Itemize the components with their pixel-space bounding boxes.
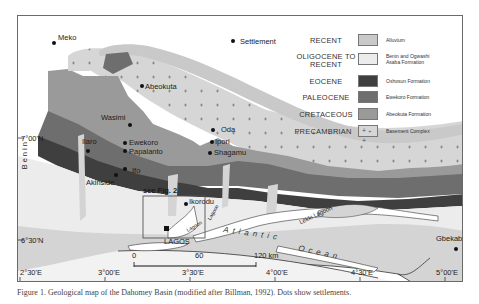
legend-swatch-oshosun [358, 75, 378, 87]
settlement-dot-ipori [210, 140, 214, 144]
legend-swatch-basement: + ₊ + [358, 125, 378, 137]
settlement-legend-dot [231, 39, 235, 43]
settlement-label-ifo: Ifo [132, 167, 140, 175]
settlement-dot-ikorodu [184, 202, 188, 206]
legend-age-recent: RECENT [296, 37, 356, 45]
legend-formation-ewekoro: Ewekoro Formation [386, 95, 429, 101]
legend-age-cretaceous: CRETACEOUS [296, 111, 356, 119]
settlement-label-akinside: Akinside [86, 179, 114, 187]
settlement-label-ikorodu: Ikorodu [189, 198, 214, 206]
scale-label-60: 60 [195, 252, 203, 260]
settlement-dot-oda [211, 128, 215, 132]
settlement-dot-shagamu [208, 151, 212, 155]
lon-label-3-00: 3°00'E [98, 269, 120, 277]
legend-formation-abeokuta: Abeokuta Formation [386, 112, 431, 118]
legend-settlement-label: Settlement [240, 38, 276, 46]
inset-label-see-fig-2: see Fig. 2 [143, 187, 177, 195]
settlement-label-abeokuta: Abeokuta [145, 83, 177, 91]
city-label-lagos: LAGOS [164, 238, 190, 246]
settlement-dot-akinside [114, 173, 118, 177]
lat-label-7-00: 7°00'N [21, 135, 43, 143]
scale-label-120km: 120 km [254, 252, 279, 260]
legend-swatch-ewekoro [358, 91, 378, 103]
settlement-dot-ewekoro [123, 141, 127, 145]
settlement-dot-ifo [123, 167, 127, 171]
legend-formation-oshosun: Oshosun Formation [386, 79, 430, 85]
lon-label-5-00: 5°00'E [436, 269, 458, 277]
settlement-label-ipori: Ipori [215, 138, 230, 146]
settlement-dot-ilaro [86, 149, 90, 153]
settlement-dot-abeokuta [140, 84, 144, 88]
settlement-dot-meko [52, 41, 56, 45]
settlement-label-oda: Oda [221, 126, 235, 134]
lat-label-6-30: 6°30'N [21, 237, 43, 245]
legend-age-oligocene: OLIGOCENE TO RECENT [296, 53, 356, 69]
lon-label-4-30: 4°30'E [351, 269, 373, 277]
legend-swatch-benin [358, 53, 378, 65]
settlement-dot-wasimi [128, 123, 132, 127]
legend-swatch-abeokuta [358, 108, 378, 120]
legend-formation-basement: Basement Complex [386, 129, 430, 135]
legend-age-eocene: EOCENE [296, 78, 356, 86]
settlement-label-ilaro: Ilaro [82, 138, 97, 146]
legend-age-precambrian: PRECAMBRIAN [293, 128, 353, 136]
legend-swatch-alluvium [358, 34, 378, 46]
lon-label-3-30: 3°30'E [182, 269, 204, 277]
legend-age-paleocene: PALEOCENE [296, 94, 356, 102]
settlement-label-wasimi: Wasimi [101, 114, 125, 122]
settlement-label-meko: Meko [58, 34, 76, 42]
legend-formation-benin: Benin and Ogwashi Asaba Formation [386, 54, 436, 65]
country-label-benin: Benin [21, 140, 29, 169]
settlement-label-papalanto: Papalanto [129, 148, 163, 156]
settlement-dot-papalanto [123, 149, 127, 153]
settlement-label-ewekoro: Ewekoro [129, 139, 158, 147]
figure-caption: Figure 1. Geological map of the Dahomey … [17, 288, 463, 297]
settlement-label-shagamu: Shagamu [214, 149, 246, 157]
scale-label-0: 0 [132, 252, 136, 260]
lon-label-2-30: 2°30'E [20, 269, 42, 277]
legend-formation-alluvium: Alluvium [386, 38, 405, 44]
lon-label-4-00: 4°00'E [266, 269, 288, 277]
settlement-dot-gbekabo [454, 247, 458, 251]
map-frame: Settlement RECENT Alluvium OLIGOCENE TO … [17, 15, 463, 282]
settlement-label-gbekabo: Gbekabo [436, 235, 463, 243]
